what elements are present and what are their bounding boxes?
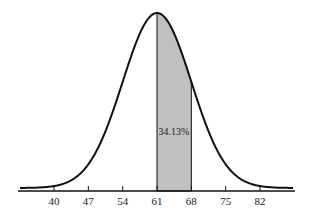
x-tick-label: 68 <box>186 195 198 207</box>
x-tick-label: 75 <box>220 195 232 207</box>
x-tick-label: 40 <box>49 195 61 207</box>
x-tick-label: 82 <box>255 195 266 207</box>
shaded-area-61-68 <box>157 13 191 191</box>
x-tick-label: 61 <box>152 195 163 207</box>
area-percentage-label: 34.13% <box>159 126 190 137</box>
x-tick-label: 47 <box>83 195 95 207</box>
x-tick-label: 54 <box>117 195 129 207</box>
x-axis-ticks: 40475461687582 <box>49 186 266 207</box>
normal-distribution-chart: 40475461687582 34.13% <box>0 0 309 217</box>
